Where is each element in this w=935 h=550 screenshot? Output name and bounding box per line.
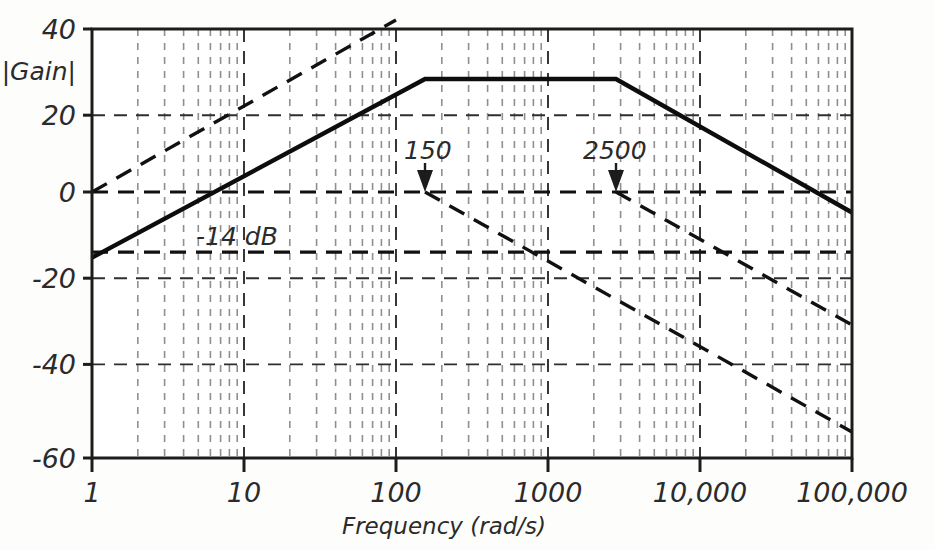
y-tick-label-minus-20: -20 xyxy=(32,263,76,294)
y-axis-title: |Gain| xyxy=(2,57,76,86)
x-axis-title: Frequency (rad/s) xyxy=(342,513,546,539)
y-tick-label-40: 40 xyxy=(42,14,76,45)
y-tick-label-20: 20 xyxy=(42,100,76,131)
y-tick-label-minus-60: -60 xyxy=(32,443,76,474)
x-axis-tick-marks xyxy=(92,458,852,472)
bode-plot-figure: 40 20 0 -20 -40 -60 |Gain| 1 10 100 1000… xyxy=(0,0,935,550)
y-tick-label-minus-40: -40 xyxy=(32,349,76,380)
x-tick-label-10000: 10,000 xyxy=(653,477,747,508)
x-tick-label-10: 10 xyxy=(227,477,261,508)
annotation-2500-label: 2500 xyxy=(583,136,647,165)
annotation-minus-14-db-label: -14 dB xyxy=(196,222,278,251)
annotation-150-label: 150 xyxy=(404,136,452,165)
x-tick-label-1: 1 xyxy=(83,477,100,508)
x-tick-label-1000: 1000 xyxy=(514,477,583,508)
bode-plot-svg: 40 20 0 -20 -40 -60 |Gain| 1 10 100 1000… xyxy=(0,0,935,550)
x-tick-label-100000: 100,000 xyxy=(796,477,908,508)
x-tick-label-100: 100 xyxy=(370,477,422,508)
y-tick-label-0: 0 xyxy=(59,177,76,208)
